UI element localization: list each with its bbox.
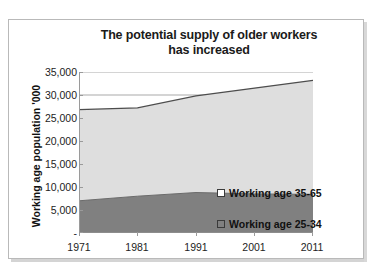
page-top-margin (0, 0, 376, 18)
x-tick-label-1981: 1981 (115, 240, 159, 254)
y-axis-tick-15000 (79, 164, 83, 165)
chart-screenshot: The potential supply of older workers ha… (0, 0, 376, 276)
y-tick-label-0: - (23, 228, 77, 239)
y-tick-label-25000: 25,000 (23, 113, 77, 124)
y-tick-label-5000: 5,000 (23, 205, 77, 216)
y-tick-label-10000: 10,000 (23, 182, 77, 193)
x-axis-tick-1981 (137, 232, 138, 236)
y-axis-tick-25000 (79, 118, 83, 119)
legend-swatch-icon-25-34 (217, 220, 225, 228)
y-axis-tick-labels: 35,000 30,000 25,000 20,000 15,000 10,00… (23, 64, 77, 242)
x-tick-label-2011: 2011 (290, 240, 334, 254)
frame-shadow-bottom (11, 259, 365, 262)
x-axis-tick-1971 (79, 232, 80, 236)
y-tick-label-35000: 35,000 (23, 67, 77, 78)
area-series-35-65 (79, 80, 313, 201)
x-axis-tick-2011 (312, 232, 313, 236)
y-axis-tick-5000 (79, 210, 83, 211)
x-tick-label-1971: 1971 (57, 240, 101, 254)
chart-title-line-1: The potential supply of older workers (61, 28, 357, 43)
y-tick-label-30000: 30,000 (23, 90, 77, 101)
chart-title-line-2: has increased (61, 43, 357, 58)
x-axis-tick-1991 (196, 232, 197, 236)
y-tick-label-20000: 20,000 (23, 136, 77, 147)
chart-legend: Working age 35-65 Working age 25-34 (217, 186, 367, 248)
legend-swatch-icon-35-65 (217, 189, 225, 197)
x-tick-label-2001: 2001 (232, 240, 276, 254)
plot-area-wrapper: Working age 35-65 Working age 25-34 (79, 72, 313, 233)
y-axis-tick-10000 (79, 187, 83, 188)
x-axis-tick-2001 (254, 232, 255, 236)
x-axis-tick-labels: 1971 1981 1991 2001 2011 (79, 240, 313, 258)
legend-label-25-34: Working age 25-34 (229, 218, 322, 230)
y-tick-label-15000: 15,000 (23, 159, 77, 170)
y-axis-tick-30000 (79, 95, 83, 96)
chart-title: The potential supply of older workers ha… (61, 28, 357, 58)
x-tick-label-1991: 1991 (174, 240, 218, 254)
chart-container: The potential supply of older workers ha… (8, 19, 364, 259)
legend-item-35-65: Working age 35-65 (217, 186, 367, 200)
y-axis-tick-20000 (79, 141, 83, 142)
y-axis-line (79, 72, 80, 233)
y-axis-tick-35000 (79, 72, 83, 73)
legend-label-35-65: Working age 35-65 (229, 187, 322, 199)
legend-item-25-34: Working age 25-34 (217, 217, 367, 231)
